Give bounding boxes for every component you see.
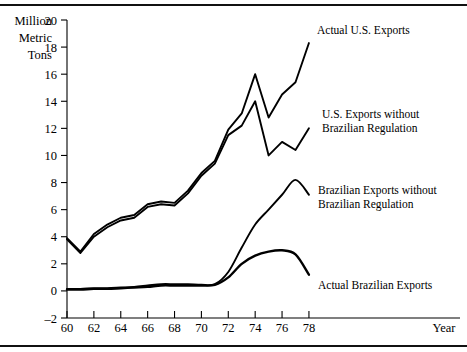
series-line-0 [67, 43, 309, 252]
x-tick-label: 60 [61, 321, 74, 335]
series-annotations: Actual U.S. ExportsU.S. Exports withoutB… [317, 24, 438, 292]
y-tick-label: 12 [45, 122, 58, 136]
y-axis-title-line: Metric [19, 31, 53, 45]
y-axis-title: MillionMetricTons [14, 14, 52, 62]
annotation-label-0: Actual U.S. Exports [317, 24, 410, 37]
annotation-label-2: Brazilian Regulation [318, 198, 414, 211]
x-axis-title: Year [432, 321, 456, 335]
series-line-1 [67, 101, 309, 253]
y-tick-label: 14 [45, 95, 58, 109]
x-tick-label: 76 [276, 321, 289, 335]
x-tick-label: 62 [88, 321, 101, 335]
y-tick-label: 16 [45, 68, 58, 82]
y-tick-label: 0 [51, 284, 57, 298]
x-axis-title: Year [432, 321, 456, 335]
y-tick-label: 6 [51, 203, 57, 217]
y-axis-title-line: Tons [28, 48, 52, 62]
x-tick-label: 74 [249, 321, 262, 335]
line-chart: –202468101214161820 60626466687072747678… [0, 0, 467, 352]
y-tick-label: 2 [51, 257, 57, 271]
x-tick-label: 64 [115, 321, 128, 335]
annotation-label-1: U.S. Exports without [322, 108, 420, 121]
x-axis: 60626466687072747678 [61, 311, 460, 335]
x-tick-label: 70 [195, 321, 208, 335]
series-line-2 [67, 180, 309, 289]
y-tick-label: 10 [45, 149, 58, 163]
x-tick-label: 72 [222, 321, 235, 335]
annotation-label-2: Brazilian Exports without [318, 184, 438, 197]
annotation-label-1: Brazilian Regulation [322, 122, 418, 135]
x-tick-label: 78 [303, 321, 316, 335]
y-axis-title-line: Million [14, 14, 52, 28]
y-tick-label: –2 [44, 312, 58, 326]
x-tick-label: 68 [168, 321, 181, 335]
y-tick-label: 4 [51, 230, 58, 244]
figure-container: –202468101214161820 60626466687072747678… [0, 0, 467, 352]
x-tick-label: 66 [141, 321, 154, 335]
series-lines [67, 43, 309, 290]
y-tick-label: 8 [51, 176, 57, 190]
annotation-label-3: Actual Brazilian Exports [318, 279, 433, 292]
